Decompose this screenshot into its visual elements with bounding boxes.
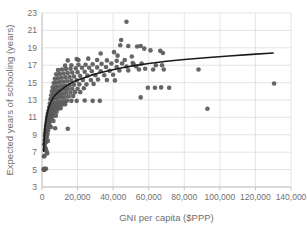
scatter-point bbox=[89, 78, 94, 83]
scatter-point bbox=[99, 62, 104, 67]
x-tick-label: 20,000 bbox=[65, 192, 91, 202]
scatter-point bbox=[161, 51, 166, 56]
scatter-point bbox=[74, 57, 79, 62]
y-tick-label: 11 bbox=[28, 112, 37, 122]
scatter-point bbox=[102, 73, 107, 78]
scatter-point bbox=[95, 58, 100, 63]
scatter-point bbox=[109, 61, 114, 66]
scatter-point bbox=[65, 58, 70, 63]
y-tick-label: 13 bbox=[28, 95, 38, 105]
scatter-point bbox=[75, 86, 80, 91]
scatter-point bbox=[54, 113, 59, 118]
scatter-point bbox=[78, 74, 83, 79]
x-axis-title: GNI per capita ($PPP) bbox=[119, 212, 214, 223]
scatter-point bbox=[151, 67, 156, 72]
scatter-point bbox=[143, 66, 148, 71]
scatter-point bbox=[72, 74, 77, 79]
scatter-point bbox=[63, 75, 68, 80]
scatter-point bbox=[69, 63, 74, 68]
y-tick-label: 9 bbox=[32, 130, 37, 140]
scatter-point bbox=[96, 77, 101, 82]
scatter-point bbox=[111, 72, 116, 77]
scatter-point bbox=[142, 46, 147, 51]
scatter-point bbox=[51, 119, 56, 124]
scatter-point bbox=[82, 69, 87, 74]
scatter-point bbox=[82, 86, 87, 91]
x-tick-label: 120,000 bbox=[240, 192, 271, 202]
scatter-point bbox=[61, 79, 66, 84]
y-tick-label: 23 bbox=[28, 8, 38, 18]
scatter-point bbox=[114, 59, 119, 64]
scatter-chart: 020,00040,00060,00080,000100,000120,0001… bbox=[0, 0, 307, 232]
scatter-point bbox=[61, 71, 66, 76]
scatter-point bbox=[122, 58, 127, 63]
scatter-point bbox=[205, 106, 210, 111]
y-tick-label: 5 bbox=[32, 165, 37, 175]
scatter-point bbox=[137, 67, 142, 72]
y-tick-label: 19 bbox=[28, 43, 38, 53]
scatter-point bbox=[53, 126, 58, 131]
scatter-point bbox=[65, 126, 70, 131]
x-tick-label: 100,000 bbox=[204, 192, 235, 202]
scatter-point bbox=[70, 70, 75, 75]
y-axis-title: Expected years of schooling (years) bbox=[4, 24, 15, 175]
scatter-point bbox=[44, 166, 49, 171]
scatter-point bbox=[138, 95, 143, 100]
scatter-point bbox=[82, 98, 87, 103]
scatter-point bbox=[98, 51, 103, 56]
scatter-point bbox=[49, 125, 54, 130]
scatter-point bbox=[42, 154, 47, 159]
x-tick-label: 80,000 bbox=[171, 192, 197, 202]
scatter-point bbox=[56, 68, 61, 73]
scatter-point bbox=[148, 48, 153, 53]
y-tick-label: 3 bbox=[32, 182, 37, 192]
scatter-point bbox=[146, 86, 151, 91]
x-tick-label: 60,000 bbox=[136, 192, 162, 202]
scatter-point bbox=[44, 149, 49, 154]
scatter-point bbox=[57, 72, 62, 77]
x-tick-label: 140,000 bbox=[276, 192, 307, 202]
scatter-point bbox=[98, 99, 103, 104]
scatter-point bbox=[69, 99, 74, 104]
scatter-point bbox=[113, 78, 118, 83]
scatter-point bbox=[84, 82, 89, 87]
scatter-point bbox=[65, 71, 70, 76]
scatter-point bbox=[63, 63, 68, 68]
scatter-point bbox=[75, 70, 80, 75]
scatter-point bbox=[76, 62, 81, 67]
y-tick-label: 17 bbox=[28, 60, 38, 70]
scatter-point bbox=[95, 65, 100, 70]
scatter-point bbox=[159, 85, 164, 90]
scatter-point bbox=[65, 79, 70, 84]
scatter-point bbox=[59, 76, 64, 81]
scatter-point bbox=[119, 38, 124, 43]
scatter-point bbox=[118, 43, 123, 48]
scatter-point bbox=[74, 99, 79, 104]
scatter-point bbox=[83, 62, 88, 67]
scatter-point bbox=[87, 66, 92, 71]
scatter-point bbox=[65, 99, 70, 104]
plot-canvas: 020,00040,00060,00080,000100,000120,0001… bbox=[0, 0, 307, 232]
scatter-point bbox=[167, 86, 172, 91]
scatter-point bbox=[91, 82, 96, 87]
scatter-point bbox=[126, 68, 131, 73]
scatter-point bbox=[80, 66, 85, 71]
scatter-point bbox=[272, 81, 277, 86]
scatter-point bbox=[162, 67, 167, 72]
y-tick-label: 15 bbox=[28, 78, 38, 88]
y-tick-label: 21 bbox=[28, 25, 38, 35]
scatter-point bbox=[60, 67, 65, 72]
scatter-point bbox=[86, 56, 91, 61]
scatter-point bbox=[105, 58, 110, 63]
scatter-point bbox=[77, 82, 82, 87]
scatter-point bbox=[130, 54, 135, 59]
scatter-point bbox=[115, 53, 120, 58]
scatter-point bbox=[112, 50, 117, 55]
scatter-point bbox=[67, 75, 72, 80]
scatter-point bbox=[105, 78, 110, 83]
scatter-point bbox=[196, 67, 201, 72]
scatter-point bbox=[153, 86, 158, 91]
scatter-point bbox=[90, 99, 95, 104]
scatter-point bbox=[126, 44, 131, 49]
scatter-point bbox=[46, 139, 51, 144]
